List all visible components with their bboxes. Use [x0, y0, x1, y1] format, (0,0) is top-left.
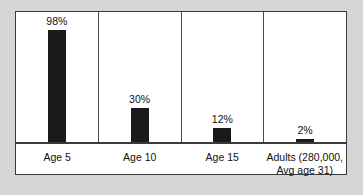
- bar-group: 30%: [99, 12, 181, 142]
- bar-value-label: 98%: [46, 15, 67, 28]
- category-cell-age-15: Age 15: [181, 144, 264, 175]
- bar-group: 2%: [264, 12, 346, 142]
- category-cell-age-10: Age 10: [99, 144, 182, 175]
- category-cell-age-5: Age 5: [16, 144, 99, 175]
- chart-panel-age-10: 30%: [99, 12, 182, 142]
- plot-area: 98% 30% 12% 2%: [16, 12, 346, 142]
- bar-age-5: [48, 30, 66, 142]
- bar-age-15: [213, 128, 231, 142]
- chart-panel-age-15: 12%: [182, 12, 265, 142]
- category-label-band: Age 5 Age 10 Age 15 Adults (280,000, Avg…: [16, 144, 346, 175]
- chart-panel-adults: 2%: [264, 12, 346, 142]
- bar-group: 98%: [16, 12, 98, 142]
- bar-value-label: 30%: [129, 93, 150, 106]
- category-label: Adults (280,000, Avg age 31): [264, 151, 347, 177]
- bar-age-10: [131, 108, 149, 142]
- chart-panel-age-5: 98%: [16, 12, 99, 142]
- bar-chart-figure: 98% 30% 12% 2% Age 5: [15, 11, 347, 175]
- category-cell-adults: Adults (280,000, Avg age 31): [264, 144, 347, 175]
- category-label: Age 5: [42, 151, 73, 164]
- bar-value-label: 2%: [298, 124, 313, 137]
- category-label: Age 10: [121, 151, 158, 164]
- category-label: Age 15: [204, 151, 241, 164]
- bar-value-label: 12%: [212, 113, 233, 126]
- bar-group: 12%: [182, 12, 264, 142]
